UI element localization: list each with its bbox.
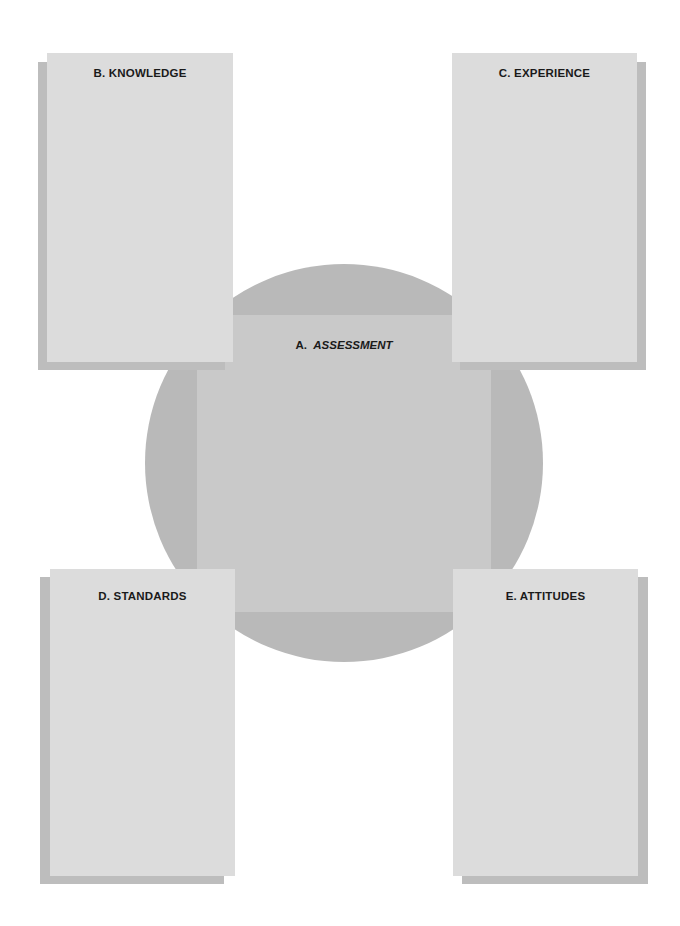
standards-box: D. STANDARDS bbox=[50, 569, 235, 876]
attitudes-box: E. ATTITUDES bbox=[453, 569, 638, 876]
assessment-box: A. ASSESSMENT bbox=[197, 315, 491, 612]
experience-label: C. EXPERIENCE bbox=[452, 67, 637, 79]
experience-box: C. EXPERIENCE bbox=[452, 53, 637, 362]
assessment-label: A. ASSESSMENT bbox=[197, 339, 491, 351]
attitudes-label: E. ATTITUDES bbox=[453, 590, 638, 602]
knowledge-label: B. KNOWLEDGE bbox=[47, 67, 233, 79]
knowledge-box: B. KNOWLEDGE bbox=[47, 53, 233, 362]
assessment-title: ASSESSMENT bbox=[313, 339, 392, 351]
standards-label: D. STANDARDS bbox=[50, 590, 235, 602]
assessment-letter: A. bbox=[295, 339, 307, 351]
